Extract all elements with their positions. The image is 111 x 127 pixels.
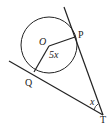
label-t: T	[100, 115, 106, 125]
tangent-line-q	[9, 61, 103, 115]
label-p: P	[78, 30, 84, 40]
angle-center-value: 5x	[49, 49, 58, 60]
angle-arc-t	[94, 104, 98, 110]
label-angle-center: 5x	[49, 50, 58, 60]
label-angle-t: x	[90, 97, 94, 107]
diagram: O P Q T 5x x	[0, 0, 111, 127]
geometry-figure	[0, 0, 111, 127]
radius-op	[49, 37, 75, 46]
label-q: Q	[25, 78, 32, 88]
label-o: O	[39, 37, 46, 47]
tangent-line-p	[64, 7, 103, 115]
circle	[21, 17, 77, 73]
radius-oq	[34, 46, 49, 72]
